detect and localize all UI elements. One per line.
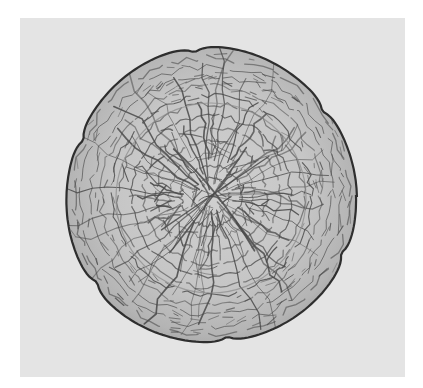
crackle-glaze-dish [0, 0, 423, 388]
